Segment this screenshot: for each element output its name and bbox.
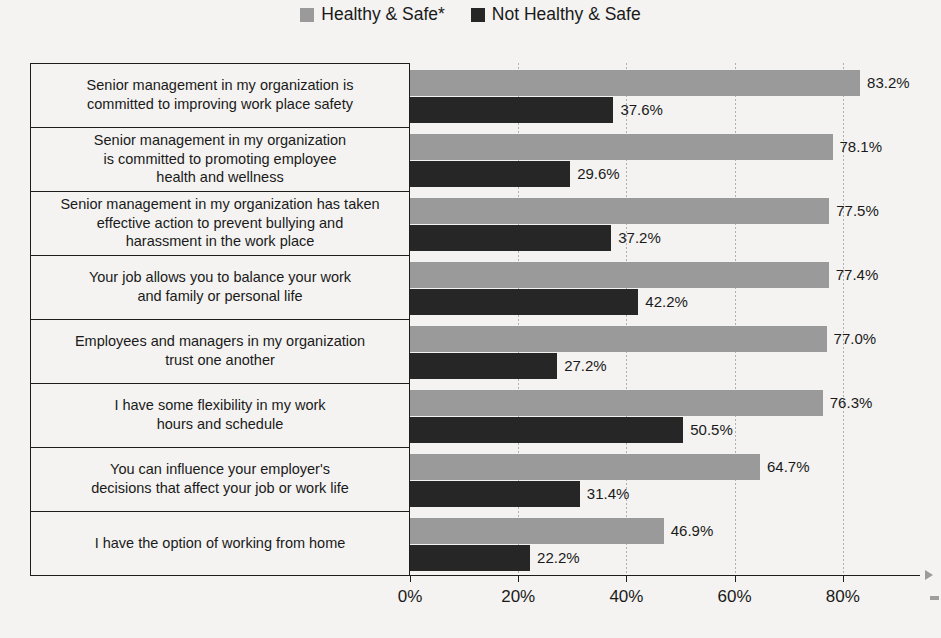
category-label: You can influence your employer's decisi… bbox=[31, 447, 409, 511]
category-label: Employees and managers in my organizatio… bbox=[31, 319, 409, 383]
bar-value-label: 42.2% bbox=[638, 289, 688, 315]
bar-value-label: 37.6% bbox=[613, 97, 663, 123]
bar-value-label: 76.3% bbox=[823, 390, 873, 416]
x-axis-line bbox=[30, 575, 920, 576]
tick-mark bbox=[518, 575, 519, 582]
category-label: I have some flexibility in my work hours… bbox=[31, 383, 409, 447]
legend-label: Not Healthy & Safe bbox=[492, 6, 641, 24]
bar-value-label: 37.2% bbox=[611, 225, 661, 251]
tick-label: 40% bbox=[609, 587, 643, 607]
legend-swatch-icon bbox=[471, 8, 485, 22]
bar-not-healthy-safe: 42.2% bbox=[410, 289, 638, 315]
tick-label: 20% bbox=[501, 587, 535, 607]
legend-item-healthy-safe: Healthy & Safe* bbox=[300, 6, 445, 24]
chart-legend: Healthy & Safe* Not Healthy & Safe bbox=[0, 0, 941, 30]
bar-not-healthy-safe: 22.2% bbox=[410, 545, 530, 571]
chart-row: Your job allows you to balance your work… bbox=[0, 255, 941, 319]
bar-value-label: 78.1% bbox=[833, 134, 883, 160]
chart-row: Senior management in my organization is … bbox=[0, 63, 941, 127]
chart-row: I have the option of working from home46… bbox=[0, 511, 941, 575]
x-axis-arrow-icon bbox=[925, 570, 933, 580]
category-label: I have the option of working from home bbox=[31, 511, 409, 575]
scan-artifact-mark bbox=[930, 596, 939, 600]
bar-healthy-safe: 77.5% bbox=[410, 198, 829, 224]
bar-value-label: 31.4% bbox=[580, 481, 630, 507]
category-label: Senior management in my organization has… bbox=[31, 191, 409, 255]
chart-row: You can influence your employer's decisi… bbox=[0, 447, 941, 511]
bar-not-healthy-safe: 27.2% bbox=[410, 353, 557, 379]
bar-healthy-safe: 77.0% bbox=[410, 326, 827, 352]
bar-value-label: 46.9% bbox=[664, 518, 714, 544]
bar-value-label: 27.2% bbox=[557, 353, 607, 379]
bar-not-healthy-safe: 29.6% bbox=[410, 161, 570, 187]
category-label: Senior management in my organization is … bbox=[31, 127, 409, 191]
legend-swatch-icon bbox=[300, 8, 314, 22]
chart-row: Senior management in my organization has… bbox=[0, 191, 941, 255]
bar-value-label: 77.0% bbox=[827, 326, 877, 352]
bar-not-healthy-safe: 37.6% bbox=[410, 97, 613, 123]
tick-mark bbox=[410, 575, 411, 582]
chart-row: Senior management in my organization is … bbox=[0, 127, 941, 191]
tick-label: 0% bbox=[398, 587, 423, 607]
bar-healthy-safe: 76.3% bbox=[410, 390, 823, 416]
tick-mark bbox=[843, 575, 844, 582]
legend-label: Healthy & Safe* bbox=[321, 6, 445, 24]
bar-value-label: 83.2% bbox=[860, 70, 910, 96]
bar-healthy-safe: 78.1% bbox=[410, 134, 833, 160]
tick-label: 80% bbox=[826, 587, 860, 607]
bar-not-healthy-safe: 50.5% bbox=[410, 417, 683, 443]
tick-mark bbox=[626, 575, 627, 582]
bar-healthy-safe: 64.7% bbox=[410, 454, 760, 480]
category-label: Senior management in my organization is … bbox=[31, 63, 409, 127]
bar-healthy-safe: 46.9% bbox=[410, 518, 664, 544]
bar-value-label: 77.5% bbox=[829, 198, 879, 224]
chart-row: I have some flexibility in my work hours… bbox=[0, 383, 941, 447]
bar-value-label: 29.6% bbox=[570, 161, 620, 187]
bar-value-label: 64.7% bbox=[760, 454, 810, 480]
bar-value-label: 50.5% bbox=[683, 417, 733, 443]
chart-row: Employees and managers in my organizatio… bbox=[0, 319, 941, 383]
bar-value-label: 77.4% bbox=[829, 262, 879, 288]
category-label: Your job allows you to balance your work… bbox=[31, 255, 409, 319]
tick-mark bbox=[735, 575, 736, 582]
bar-not-healthy-safe: 37.2% bbox=[410, 225, 611, 251]
bar-healthy-safe: 83.2% bbox=[410, 70, 860, 96]
bar-healthy-safe: 77.4% bbox=[410, 262, 829, 288]
bar-not-healthy-safe: 31.4% bbox=[410, 481, 580, 507]
bar-value-label: 22.2% bbox=[530, 545, 580, 571]
legend-item-not-healthy-safe: Not Healthy & Safe bbox=[471, 6, 641, 24]
tick-label: 60% bbox=[718, 587, 752, 607]
bar-chart: Healthy & Safe* Not Healthy & Safe Senio… bbox=[0, 0, 941, 638]
